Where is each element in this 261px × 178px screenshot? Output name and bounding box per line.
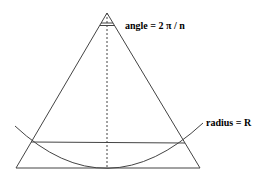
radius-label: radius = R: [206, 117, 251, 128]
angle-label: angle = 2 π / n: [125, 20, 185, 31]
isosceles-triangle: [16, 13, 200, 168]
chord-line: [31, 142, 185, 143]
radius-arc: [15, 123, 203, 168]
